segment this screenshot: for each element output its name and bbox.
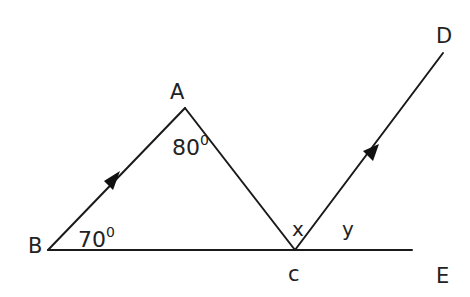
angle-b-value: 70	[78, 227, 106, 252]
point-label-c: c	[288, 262, 300, 286]
point-label-a: A	[170, 80, 185, 104]
point-label-b: B	[28, 234, 42, 258]
geometry-diagram: A B c D E 800 700 x y	[0, 0, 470, 297]
degree-symbol-b: 0	[106, 224, 115, 240]
segment-ac	[185, 108, 295, 250]
angle-y-label: y	[342, 217, 354, 241]
angle-a-value: 80	[172, 135, 200, 160]
parallel-arrow-ba-icon	[104, 171, 120, 190]
point-label-e: E	[436, 264, 449, 288]
parallel-arrow-cd-icon	[363, 144, 379, 161]
degree-symbol-a: 0	[200, 132, 209, 148]
angle-a-label: 800	[172, 132, 209, 160]
point-label-d: D	[436, 24, 452, 48]
angle-x-label: x	[292, 217, 304, 241]
angle-b-label: 700	[78, 224, 115, 252]
